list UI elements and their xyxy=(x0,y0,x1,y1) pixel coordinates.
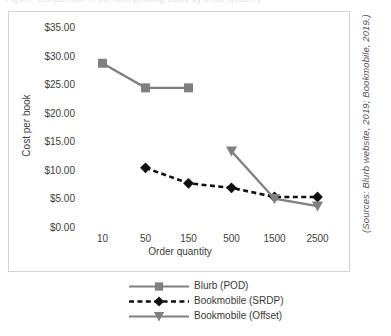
data-point-marker xyxy=(183,178,194,189)
legend-marker-icon xyxy=(128,294,190,307)
x-axis-tick-label: 150 xyxy=(167,233,211,244)
plot-area: Cost per book Order quantity $0.00$5.00$… xyxy=(9,12,351,273)
legend-marker-icon xyxy=(128,309,190,322)
data-point-marker xyxy=(140,162,151,173)
y-axis-tick-label: $10.00 xyxy=(19,165,75,176)
x-axis-tick-label: 500 xyxy=(210,233,254,244)
legend-label: Bookmobile (SRDP) xyxy=(194,295,283,306)
clipped-caption-sliver: Figure: comparison of per-unit printing … xyxy=(0,0,391,7)
legend-item[interactable]: Bookmobile (SRDP) xyxy=(0,293,391,308)
chart-legend: Blurb (POD)Bookmobile (SRDP)Bookmobile (… xyxy=(0,278,391,323)
data-point-marker xyxy=(184,83,193,92)
y-axis-tick-label: $15.00 xyxy=(19,136,75,147)
x-axis-tick-label: 1500 xyxy=(253,233,297,244)
y-axis-tick-label: $35.00 xyxy=(19,22,75,33)
source-note: (Sources: Blurb website, 2019; Bookmobil… xyxy=(360,6,371,242)
chart-frame: Cost per book Order quantity $0.00$5.00$… xyxy=(8,11,350,272)
y-axis-tick-label: $0.00 xyxy=(19,222,75,233)
y-axis-tick-label: $30.00 xyxy=(19,51,75,62)
legend-label: Blurb (POD) xyxy=(194,280,248,291)
data-point-marker xyxy=(98,59,107,68)
data-point-marker xyxy=(312,192,323,203)
legend-label: Bookmobile (Offset) xyxy=(194,310,282,321)
x-axis-tick-label: 10 xyxy=(81,233,125,244)
x-axis-tick-label: 50 xyxy=(124,233,168,244)
y-axis-tick-label: $5.00 xyxy=(19,193,75,204)
legend-marker-icon xyxy=(128,279,190,292)
y-axis-tick-label: $25.00 xyxy=(19,79,75,90)
legend-item[interactable]: Bookmobile (Offset) xyxy=(0,308,391,323)
x-axis-tick-label: 2500 xyxy=(296,233,340,244)
data-point-marker xyxy=(141,83,150,92)
data-point-marker xyxy=(226,182,237,193)
y-axis-tick-label: $20.00 xyxy=(19,108,75,119)
legend-item[interactable]: Blurb (POD) xyxy=(0,278,391,293)
